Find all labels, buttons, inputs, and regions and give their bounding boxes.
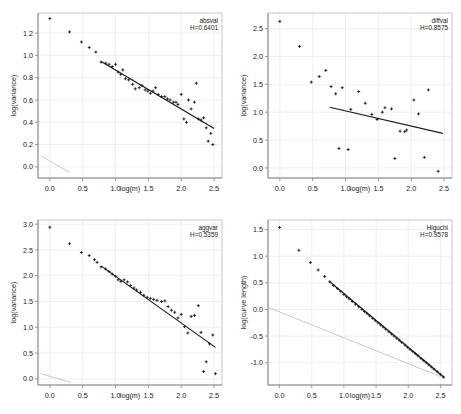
svg-text:0.4: 0.4 — [23, 118, 33, 127]
svg-text:log(variance): log(variance) — [9, 282, 18, 324]
svg-text:2.0: 2.0 — [176, 391, 186, 400]
method-name: aggvar — [190, 224, 218, 231]
svg-text:1.2: 1.2 — [23, 29, 33, 38]
svg-text:0.0: 0.0 — [45, 391, 55, 400]
svg-text:0.0: 0.0 — [275, 391, 285, 400]
svg-text:0.6: 0.6 — [23, 96, 33, 105]
svg-text:1.5: 1.5 — [143, 391, 153, 400]
method-name: Higuchi — [420, 224, 448, 231]
data-points — [278, 226, 445, 379]
svg-text:0.0: 0.0 — [275, 184, 285, 193]
hurst-value: H=0.5359 — [190, 231, 218, 238]
svg-text:2.5: 2.5 — [253, 24, 263, 33]
svg-text:0.0: 0.0 — [253, 305, 263, 314]
svg-text:-1.0: -1.0 — [251, 358, 263, 367]
svg-text:1.0: 1.0 — [23, 323, 33, 332]
panel-aggvar: 0.00.51.01.52.02.50.00.51.01.52.02.53.0l… — [0, 207, 230, 414]
svg-text:log(variance): log(variance) — [239, 75, 248, 117]
svg-text:2.5: 2.5 — [439, 184, 449, 193]
svg-text:0.5: 0.5 — [307, 391, 317, 400]
svg-text:1.5: 1.5 — [143, 184, 153, 193]
svg-text:1.0: 1.0 — [253, 252, 263, 261]
hurst-value: H=0.9578 — [420, 231, 448, 238]
svg-text:1.0: 1.0 — [253, 108, 263, 117]
svg-text:log(m): log(m) — [120, 391, 140, 400]
svg-text:0.2: 0.2 — [23, 140, 33, 149]
panel-diffval: 0.00.51.01.52.02.50.00.51.01.52.02.5log(… — [230, 0, 460, 207]
svg-text:1.5: 1.5 — [373, 184, 383, 193]
svg-text:0.5: 0.5 — [253, 278, 263, 287]
svg-text:2.5: 2.5 — [209, 184, 219, 193]
svg-text:2.0: 2.0 — [253, 52, 263, 61]
svg-text:2.5: 2.5 — [23, 246, 33, 255]
svg-text:1.0: 1.0 — [23, 51, 33, 60]
svg-text:2.5: 2.5 — [209, 391, 219, 400]
svg-text:0.8: 0.8 — [23, 73, 33, 82]
figure-panel-grid: 0.00.51.01.52.02.50.00.20.40.60.81.01.2l… — [0, 0, 461, 414]
svg-text:0.5: 0.5 — [253, 136, 263, 145]
svg-text:0.0: 0.0 — [45, 184, 55, 193]
svg-text:2.5: 2.5 — [435, 391, 445, 400]
svg-text:1.0: 1.0 — [339, 391, 349, 400]
svg-text:3.0: 3.0 — [23, 220, 33, 229]
svg-text:0.0: 0.0 — [23, 374, 33, 383]
svg-text:0.5: 0.5 — [78, 391, 88, 400]
svg-text:0.5: 0.5 — [78, 184, 88, 193]
svg-text:log(m): log(m) — [120, 184, 140, 193]
svg-text:log(m): log(m) — [350, 184, 370, 193]
svg-text:log(m): log(m) — [350, 391, 370, 400]
hurst-value: H=0.6401 — [190, 24, 218, 31]
panel-annotation: absvalH=0.6401 — [190, 17, 218, 31]
data-points — [48, 17, 214, 146]
data-points — [278, 20, 439, 173]
svg-text:1.5: 1.5 — [23, 297, 33, 306]
svg-text:1.5: 1.5 — [371, 391, 381, 400]
panel-higuchi: 0.00.51.01.52.02.5-1.0-0.50.00.51.01.5lo… — [230, 207, 460, 414]
panel-annotation: aggvarH=0.5359 — [190, 224, 218, 238]
svg-text:1.5: 1.5 — [253, 80, 263, 89]
panel-annotation: HiguchiH=0.9578 — [420, 224, 448, 238]
svg-text:2.0: 2.0 — [403, 391, 413, 400]
svg-text:log(variance): log(variance) — [9, 75, 18, 117]
panel-absval: 0.00.51.01.52.02.50.00.20.40.60.81.01.2l… — [0, 0, 230, 207]
svg-text:log(curve length): log(curve length) — [239, 276, 248, 330]
svg-text:2.0: 2.0 — [176, 184, 186, 193]
svg-text:0.0: 0.0 — [23, 162, 33, 171]
method-name: diffval — [420, 17, 448, 24]
svg-text:-0.5: -0.5 — [251, 332, 263, 341]
svg-text:0.5: 0.5 — [23, 349, 33, 358]
svg-text:1.5: 1.5 — [253, 225, 263, 234]
hurst-value: H=0.8575 — [420, 24, 448, 31]
svg-text:2.0: 2.0 — [406, 184, 416, 193]
method-name: absval — [190, 17, 218, 24]
svg-text:2.0: 2.0 — [23, 271, 33, 280]
svg-text:0.0: 0.0 — [253, 164, 263, 173]
svg-text:0.5: 0.5 — [308, 184, 318, 193]
panel-annotation: diffvalH=0.8575 — [420, 17, 448, 31]
